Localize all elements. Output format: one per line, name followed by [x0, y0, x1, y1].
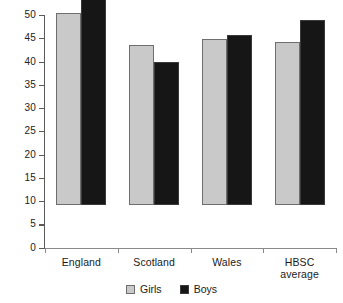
bar-scotland-boys	[154, 62, 179, 205]
category-label: HBSCaverage	[263, 256, 336, 280]
y-tick-label: 45	[6, 33, 36, 43]
bar-england-boys	[81, 0, 106, 205]
category-label-line: HBSC	[285, 256, 315, 268]
y-tick-label: 15	[6, 173, 36, 183]
bar-wales-boys	[227, 35, 252, 205]
bar-chart: 50454035302520151050 EnglandScotlandWale…	[0, 0, 343, 303]
legend-item-girls[interactable]: Girls	[126, 284, 162, 295]
y-tick	[39, 62, 45, 63]
y-tick	[39, 178, 45, 179]
bar-hbsc-average-boys	[300, 20, 325, 205]
y-tick	[39, 201, 45, 202]
bar-scotland-girls	[129, 45, 154, 205]
legend-label: Girls	[140, 284, 162, 295]
y-tick-label: 20	[6, 150, 36, 160]
y-tick-label: 0	[6, 243, 36, 253]
x-tick	[263, 248, 264, 253]
y-tick	[39, 108, 45, 109]
category-label: England	[45, 256, 118, 268]
y-tick-label: 10	[6, 196, 36, 206]
y-tick	[39, 155, 45, 156]
y-tick	[39, 15, 45, 16]
y-tick	[39, 38, 45, 39]
category-label: Scotland	[118, 256, 191, 268]
x-tick	[191, 248, 192, 253]
y-tick	[39, 85, 45, 86]
y-tick	[39, 131, 45, 132]
x-tick	[45, 248, 46, 253]
legend-item-boys[interactable]: Boys	[180, 284, 217, 295]
y-tick-label: 50	[6, 10, 36, 20]
y-tick-label: 40	[6, 57, 36, 67]
legend-swatch-icon	[126, 285, 135, 294]
plot-area: 50454035302520151050 EnglandScotlandWale…	[0, 0, 343, 260]
category-label-line: Wales	[212, 256, 241, 268]
y-tick-label: 5	[6, 219, 36, 229]
y-tick-label: 35	[6, 80, 36, 90]
chart-legend: GirlsBoys	[0, 284, 343, 295]
x-tick	[118, 248, 119, 253]
legend-label: Boys	[194, 284, 217, 295]
y-tick-label: 30	[6, 103, 36, 113]
bar-england-girls	[56, 13, 81, 205]
legend-swatch-icon	[180, 285, 189, 294]
category-label-line: Scotland	[133, 256, 175, 268]
y-tick	[39, 224, 45, 225]
x-tick	[336, 248, 337, 253]
category-label: Wales	[191, 256, 264, 268]
category-label-line: England	[62, 256, 101, 268]
y-tick-label: 25	[6, 126, 36, 136]
bar-wales-girls	[202, 39, 227, 205]
bar-hbsc-average-girls	[275, 42, 300, 205]
category-label-line: average	[263, 268, 336, 280]
